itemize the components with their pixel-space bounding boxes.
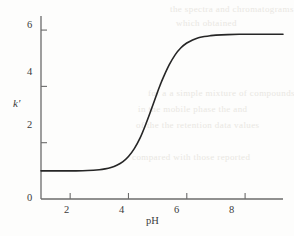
y-tick-label: 2 (27, 120, 32, 131)
y-tick-label: 0 (27, 193, 32, 204)
y-tick-label: 4 (27, 67, 32, 78)
x-tick-label: 8 (229, 205, 234, 216)
x-axis-title: pH (146, 216, 159, 227)
x-tick-label: 2 (64, 205, 69, 216)
y-axis-title: k′ (13, 98, 20, 109)
y-tick-label: 6 (27, 20, 32, 31)
x-tick-label: 4 (119, 205, 124, 216)
chart-figure: the spectra and chromatograms which obta… (0, 0, 294, 236)
x-tick-marks (70, 193, 245, 199)
data-curve-k-prime (41, 34, 283, 171)
y-tick-marks (41, 30, 47, 143)
plot-area (0, 0, 294, 236)
x-tick-label: 6 (174, 205, 179, 216)
